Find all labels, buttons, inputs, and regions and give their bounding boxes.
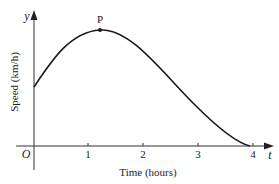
x-tick-label-4: 4 [250,148,256,160]
x-axis-title: Time (hours) [119,166,177,179]
x-tick-label-2: 2 [140,148,146,160]
peak-label: P [97,13,103,25]
y-axis-title: Speed (km/h) [8,52,21,112]
x-symbol-label: t [268,148,272,162]
speed-time-chart: P y t O 1 2 3 4 Time (hours) Speed (km/h… [0,0,279,184]
y-symbol-label: y [23,9,30,23]
x-tick-label-3: 3 [195,148,201,160]
peak-point-p [98,28,102,32]
origin-label: O [22,147,31,161]
x-tick-label-1: 1 [85,148,91,160]
y-axis-arrow-icon [31,10,38,20]
speed-curve [34,30,250,146]
